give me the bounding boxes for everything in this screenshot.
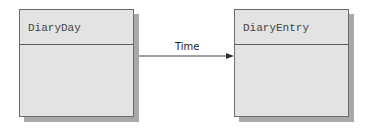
association-line [0, 0, 370, 130]
association-label: Time [175, 41, 199, 52]
arrowhead-icon [226, 53, 234, 59]
